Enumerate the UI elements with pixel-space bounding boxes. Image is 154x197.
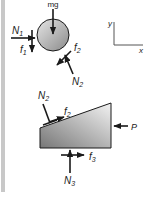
wedge-normal-on-ball-arrow: N2 — [65, 55, 83, 88]
floor-friction-arrow: f3 — [61, 151, 96, 163]
f2-wedge-label: f2 — [64, 106, 71, 118]
wedge — [40, 103, 111, 148]
n3-label: N3 — [64, 175, 75, 187]
n2-ball-label: N2 — [72, 76, 83, 88]
weight-label: mg — [47, 0, 58, 9]
p-label: P — [131, 122, 137, 132]
n1-label: N1 — [12, 25, 23, 37]
f2-ball-label: f2 — [74, 42, 81, 54]
coordinate-axes: y x — [107, 19, 144, 55]
f1-label: f1 — [20, 44, 27, 56]
f3-label: f3 — [89, 151, 96, 163]
free-body-diagram: mg N1 f1 f2 N2 y x — [0, 0, 154, 197]
y-axis-label: y — [107, 19, 113, 28]
diagram-canvas: mg N1 f1 f2 N2 y x — [0, 0, 154, 197]
n2-wedge-label: N2 — [38, 90, 49, 102]
x-axis-label: x — [138, 46, 144, 55]
push-arrow: P — [114, 122, 137, 132]
